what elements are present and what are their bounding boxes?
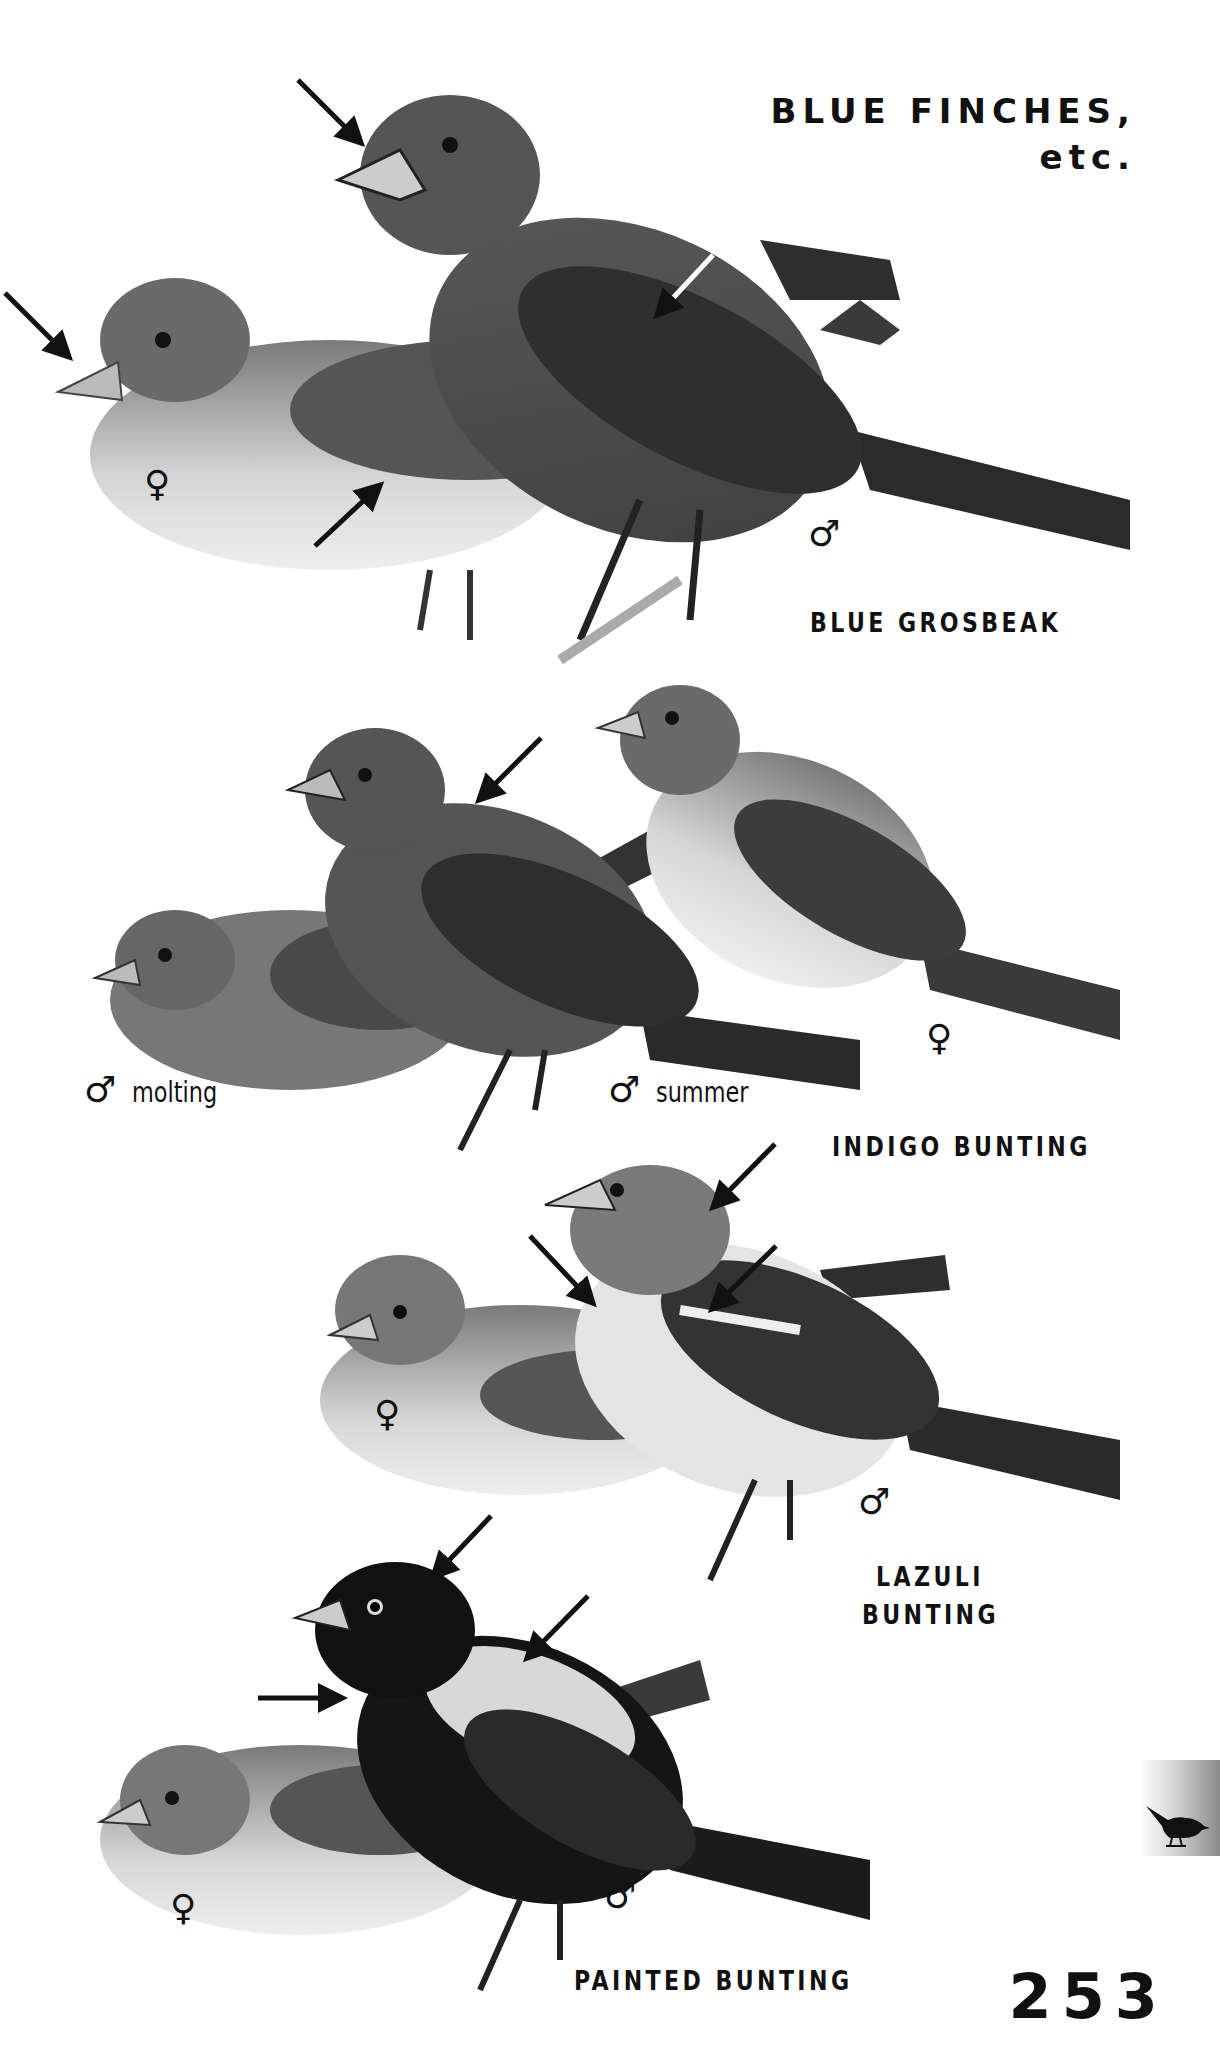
species-label-lazuli: LAZULI	[876, 1562, 984, 1592]
lazuli-bunting-male	[539, 1165, 1120, 1580]
plate-title-line1: BLUE FINCHES,	[771, 91, 1136, 131]
plate-illustrations	[0, 0, 1220, 2063]
male-symbol: ♂	[84, 1072, 116, 1108]
species-label-blue-grosbeak: BLUE GROSBEAK	[810, 608, 1061, 638]
female-symbol: ♀	[374, 1396, 400, 1432]
male-symbol: ♂	[608, 1072, 640, 1108]
songbird-silhouette-icon	[1140, 1760, 1220, 1856]
male-symbol: ♂	[808, 516, 840, 552]
caption-molting: molting	[132, 1076, 217, 1109]
female-symbol: ♀	[926, 1020, 952, 1056]
species-label-painted-bunting: PAINTED BUNTING	[574, 1966, 852, 1996]
plate-title-line2: etc.	[771, 134, 1136, 180]
female-symbol: ♀	[144, 466, 170, 502]
plate-title: BLUE FINCHES, etc.	[771, 88, 1136, 180]
page-number: 253	[1009, 1960, 1168, 2033]
male-symbol: ♂	[858, 1484, 890, 1520]
male-symbol: ♂	[604, 1878, 636, 1914]
species-label-bunting: BUNTING	[862, 1600, 999, 1630]
female-symbol: ♀	[170, 1890, 196, 1926]
caption-summer: summer	[656, 1076, 749, 1109]
section-thumb-tab	[1140, 1760, 1220, 1856]
species-label-indigo-bunting: INDIGO BUNTING	[832, 1132, 1091, 1162]
